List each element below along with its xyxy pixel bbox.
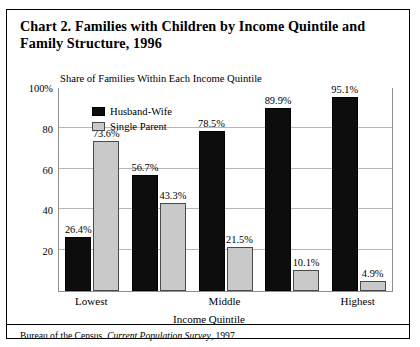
footer-divider	[7, 324, 409, 325]
bar-single-parent-3	[227, 247, 253, 291]
source-prefix: Bureau of the Census.	[20, 330, 107, 341]
source-suffix: , 1997.	[211, 330, 237, 341]
chart-subtitle: Share of Families Within Each Income Qui…	[60, 73, 262, 84]
legend-swatch-single-parent	[92, 122, 105, 131]
bar-single-parent-5	[360, 281, 386, 291]
value-label-single-parent-2: 43.3%	[153, 190, 193, 202]
x-label-middle: Middle	[209, 295, 241, 307]
legend-label-husband-wife: Husband-Wife	[110, 106, 172, 117]
x-label-lowest: Lowest	[75, 295, 107, 307]
value-label-single-parent-3: 21.5%	[220, 234, 260, 246]
y-tick-100: 100%	[29, 83, 53, 94]
bar-husband-wife-3	[199, 131, 225, 291]
bar-group-4: 89.9%10.1%	[265, 88, 319, 291]
legend-item-single-parent: Single Parent	[92, 120, 172, 133]
value-label-husband-wife-5: 95.1%	[325, 84, 365, 96]
x-label-highest: Highest	[341, 295, 375, 307]
chart-card: Chart 2. Families with Children by Incom…	[6, 9, 410, 339]
chart-area: Share of Families Within Each Income Qui…	[58, 76, 394, 292]
chart-legend: Husband-Wife Single Parent	[92, 105, 172, 135]
y-tick-20: 20	[43, 246, 53, 257]
source-italic: Current Population Survey	[107, 330, 211, 341]
y-tick-80: 80	[43, 123, 53, 134]
y-tick-60: 60	[43, 164, 53, 175]
bar-single-parent-1	[93, 141, 119, 291]
bar-single-parent-4	[293, 270, 319, 291]
value-label-husband-wife-1: 26.4%	[58, 224, 98, 236]
value-label-husband-wife-4: 89.9%	[258, 95, 298, 107]
legend-swatch-husband-wife	[92, 107, 105, 116]
bar-husband-wife-5	[332, 97, 358, 291]
bar-single-parent-2	[160, 203, 186, 291]
source-note: Bureau of the Census. Current Population…	[20, 330, 237, 341]
bar-husband-wife-1	[65, 237, 91, 291]
bar-group-5: 95.1%4.9%	[332, 88, 386, 291]
value-label-single-parent-4: 10.1%	[286, 257, 326, 269]
value-label-single-parent-5: 4.9%	[353, 268, 393, 280]
value-label-husband-wife-3: 78.5%	[192, 118, 232, 130]
value-label-husband-wife-2: 56.7%	[125, 162, 165, 174]
y-tick-40: 40	[43, 205, 53, 216]
page-title: Chart 2. Families with Children by Incom…	[20, 18, 390, 52]
bar-group-3: 78.5%21.5%	[199, 88, 253, 291]
legend-item-husband-wife: Husband-Wife	[92, 105, 172, 118]
plot-frame: 26.4%73.6%56.7%43.3%78.5%21.5%89.9%10.1%…	[58, 88, 393, 292]
y-axis-labels: 100%80604020	[7, 10, 57, 292]
legend-label-single-parent: Single Parent	[110, 121, 167, 132]
